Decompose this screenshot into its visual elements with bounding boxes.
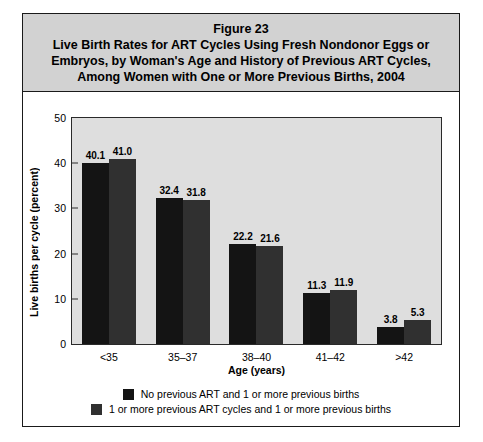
legend-label: 1 or more previous ART cycles and 1 or m… <box>109 403 391 415</box>
y-tick-label: 50 <box>54 112 66 124</box>
figure-title-line-2: Embryos, by Woman's Age and History of P… <box>51 53 431 69</box>
bar-value-label: 22.2 <box>233 231 252 242</box>
bar-value-label: 21.6 <box>260 233 279 244</box>
bar-value-label: 11.3 <box>307 280 326 291</box>
bar: 31.8 <box>183 200 210 344</box>
bar-value-label: 3.8 <box>384 314 398 325</box>
legend-label: No previous ART and 1 or more previous b… <box>141 388 359 400</box>
bar: 22.2 <box>229 244 256 344</box>
bar: 32.4 <box>156 198 183 344</box>
figure-number: Figure 23 <box>213 21 269 37</box>
bar: 11.9 <box>330 290 357 344</box>
y-tick-label: 30 <box>54 202 66 214</box>
bar-value-label: 32.4 <box>159 185 178 196</box>
legend-item: 1 or more previous ART cycles and 1 or m… <box>91 403 391 415</box>
x-tick-label: >42 <box>395 351 413 363</box>
bar: 40.1 <box>82 163 109 344</box>
y-tick-label: 10 <box>54 293 66 305</box>
x-tick-label: 41–42 <box>316 351 345 363</box>
legend-swatch-icon <box>123 389 134 400</box>
y-tick-label: 20 <box>54 248 66 260</box>
bar: 11.3 <box>303 293 330 344</box>
y-axis-title: Live births per cycle (percent) <box>28 152 44 332</box>
figure-title-block: Figure 23 Live Birth Rates for ART Cycle… <box>23 14 459 92</box>
figure-title-line-1: Live Birth Rates for ART Cycles Using Fr… <box>53 37 430 53</box>
chart-body: Live births per cycle (percent) 01020304… <box>23 92 459 428</box>
bar-value-label: 5.3 <box>411 307 425 318</box>
figure-container: Figure 23 Live Birth Rates for ART Cycle… <box>22 13 460 427</box>
x-axis-title: Age (years) <box>71 364 442 376</box>
bar-group: 32.431.835–37 <box>146 118 220 344</box>
legend-swatch-icon <box>91 404 102 415</box>
y-tick-label: 40 <box>54 157 66 169</box>
y-tick-label: 0 <box>60 338 66 350</box>
chart-legend: No previous ART and 1 or more previous b… <box>23 388 459 415</box>
bar-value-label: 31.8 <box>186 187 205 198</box>
bar-value-label: 40.1 <box>86 150 105 161</box>
bar-group: 40.141.0<35 <box>72 118 146 344</box>
bar-value-label: 41.0 <box>113 146 132 157</box>
figure-title-line-3: Among Women with One or More Previous Bi… <box>77 69 405 85</box>
bar: 3.8 <box>377 327 404 344</box>
bar: 21.6 <box>256 246 283 344</box>
legend-item: No previous ART and 1 or more previous b… <box>123 388 359 400</box>
bar-group: 11.311.941–42 <box>293 118 367 344</box>
bar-value-label: 11.9 <box>334 277 353 288</box>
plot-area: 0102030405040.141.0<3532.431.835–3722.22… <box>71 117 442 345</box>
x-tick-label: 35–37 <box>168 351 197 363</box>
bar: 41.0 <box>109 159 136 344</box>
bar-group: 3.85.3>42 <box>367 118 441 344</box>
bar-group: 22.221.638–40 <box>220 118 294 344</box>
bar: 5.3 <box>404 320 431 344</box>
x-tick-label: <35 <box>100 351 118 363</box>
x-tick-label: 38–40 <box>242 351 271 363</box>
